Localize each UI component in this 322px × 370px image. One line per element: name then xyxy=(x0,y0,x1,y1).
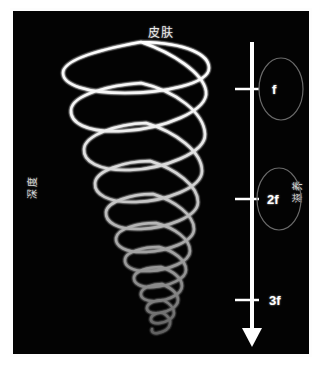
freq-ellipse-2f xyxy=(257,168,301,230)
freq-label-3f: 3f xyxy=(269,293,281,308)
freq-ellipse-f xyxy=(259,58,303,120)
caption-strip xyxy=(10,358,312,368)
diagram-panel: 皮肤 深度 滋养 xyxy=(13,11,309,354)
depth-axis xyxy=(13,11,309,354)
down-arrow-icon xyxy=(242,328,262,347)
figure-root: 皮肤 深度 滋养 xyxy=(0,0,322,370)
freq-label-f: f xyxy=(272,82,276,97)
freq-label-2f: 2f xyxy=(267,192,279,207)
